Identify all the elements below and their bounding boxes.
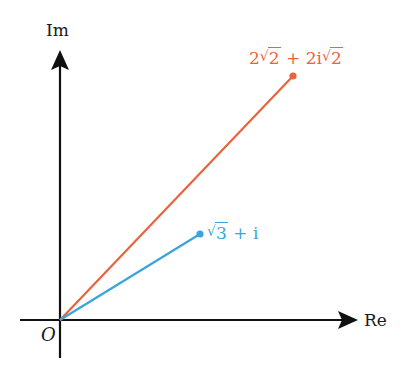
sqrt-icon: √2 xyxy=(260,50,281,67)
origin-label: O xyxy=(41,326,56,344)
orange-vector-endpoint xyxy=(289,72,296,79)
orange-label-op: + xyxy=(286,48,300,68)
sqrt-icon: √2 xyxy=(322,50,343,67)
complex-plane-diagram xyxy=(0,0,408,367)
blue-label-op: + xyxy=(233,223,247,243)
real-axis-label: Re xyxy=(364,312,387,329)
orange-vector-label: 2√2 + 2i√2 xyxy=(249,50,343,67)
blue-label-imag: i xyxy=(253,223,258,243)
imaginary-axis-label: Im xyxy=(46,22,69,39)
orange-vector-line xyxy=(60,76,293,320)
orange-label-rad-b: 2 xyxy=(330,47,343,68)
orange-label-coef-a: 2 xyxy=(249,48,260,68)
orange-label-rad-a: 2 xyxy=(268,47,281,68)
orange-label-coef-b: 2i xyxy=(306,48,322,68)
sqrt-icon: √3 xyxy=(207,225,228,242)
blue-vector-endpoint xyxy=(196,230,203,237)
blue-vector-label: √3 + i xyxy=(207,225,258,242)
blue-label-rad: 3 xyxy=(215,222,228,243)
